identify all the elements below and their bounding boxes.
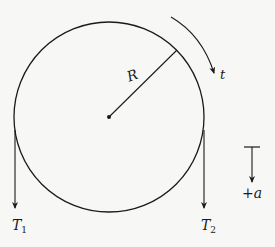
rotation-label: t [220,67,226,82]
rotation-arrow-icon [171,17,214,73]
radius-line [109,50,177,117]
pulley-diagram: R t T1 T2 +a [0,0,275,247]
tension-label-right: T2 [201,217,216,235]
acceleration-label: +a [242,185,262,201]
tension-label-left: T1 [12,217,27,235]
radius-label: R [124,66,141,85]
